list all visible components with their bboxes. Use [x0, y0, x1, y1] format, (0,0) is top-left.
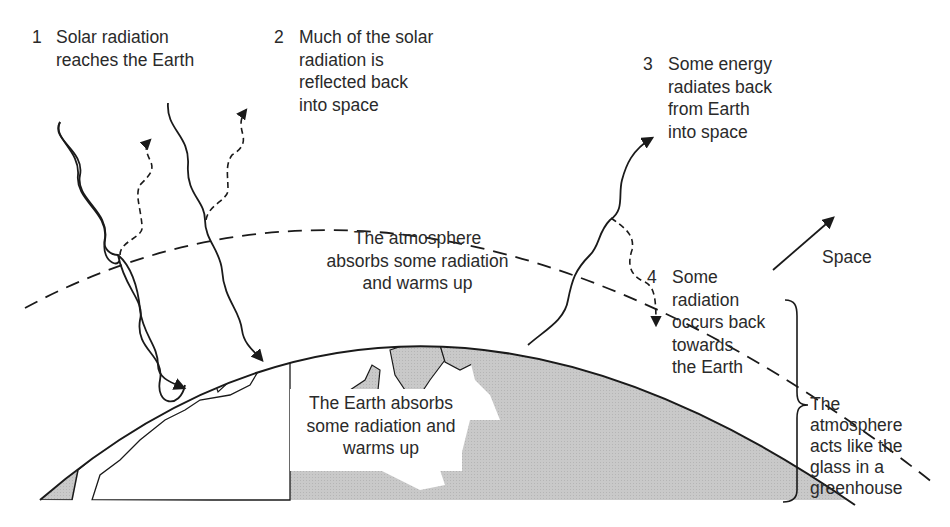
step-4-text: Some radiation occurs back towards the E…: [672, 266, 765, 379]
step-4-line: the Earth: [672, 356, 765, 379]
step-4-line: Some: [672, 266, 765, 289]
step-1-number: 1: [32, 26, 42, 49]
earth-label-line: The Earth absorbs: [290, 392, 472, 415]
greenhouse-label-line: atmosphere: [810, 415, 902, 436]
step-4-line: towards: [672, 334, 765, 357]
step-2-line: reflected back: [299, 71, 433, 94]
step-1-line: Solar radiation: [56, 26, 194, 49]
earth-label: The Earth absorbs some radiation and war…: [290, 392, 472, 460]
step-1-text: Solar radiation reaches the Earth: [56, 26, 194, 71]
step-4-line: occurs back: [672, 311, 765, 334]
greenhouse-label: The atmosphere acts like the glass in a …: [810, 394, 902, 499]
step-2-text: Much of the solar radiation is reflected…: [299, 26, 433, 116]
greenhouse-label-line: glass in a: [810, 457, 902, 478]
step-3-text: Some energy radiates back from Earth int…: [668, 53, 772, 143]
step-3-line: into space: [668, 121, 772, 144]
earth-label-line: warms up: [290, 437, 472, 460]
greenhouse-label-line: greenhouse: [810, 478, 902, 499]
atmosphere-label-line: absorbs some radiation: [310, 250, 525, 273]
step-2-number: 2: [274, 26, 284, 49]
atmosphere-label: The atmosphere absorbs some radiation an…: [310, 227, 525, 295]
step-1-line: reaches the Earth: [56, 49, 194, 72]
step-2-line: radiation is: [299, 49, 433, 72]
greenhouse-label-line: acts like the: [810, 436, 902, 457]
step-3-line: Some energy: [668, 53, 772, 76]
earth-label-line: some radiation and: [290, 415, 472, 438]
outgoing-ray-3: [528, 138, 652, 345]
reflected-ray-2: [206, 110, 246, 220]
step-3-line: from Earth: [668, 98, 772, 121]
step-4-line: radiation: [672, 289, 765, 312]
reflected-ray-1: [120, 140, 152, 255]
step-2-line: into space: [299, 94, 433, 117]
atmosphere-label-line: and warms up: [310, 272, 525, 295]
solar-ray-2: [168, 103, 262, 360]
step-2-line: Much of the solar: [299, 26, 433, 49]
space-label: Space: [822, 246, 872, 269]
step-3-number: 3: [643, 53, 653, 76]
greenhouse-label-line: The: [810, 394, 902, 415]
step-3-line: radiates back: [668, 76, 772, 99]
atmosphere-label-line: The atmosphere: [310, 227, 525, 250]
step-4-number: 4: [647, 266, 657, 289]
